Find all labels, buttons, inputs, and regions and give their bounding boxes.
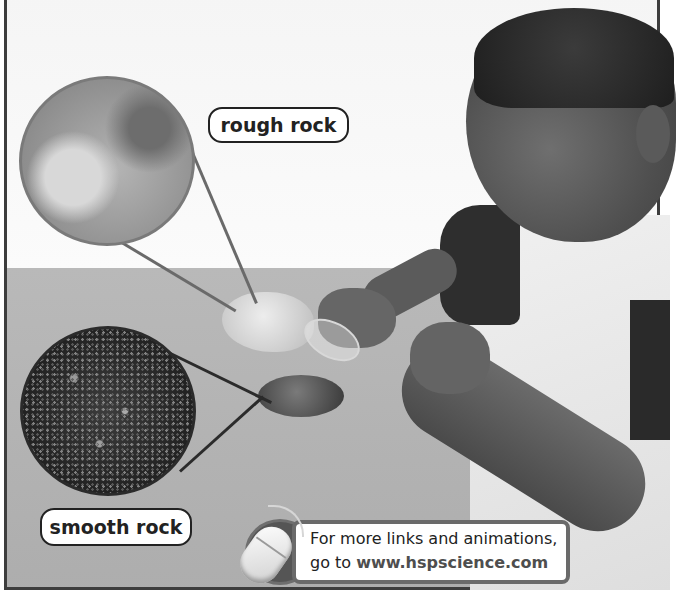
links-banner[interactable]: For more links and animations, go to www… (292, 520, 570, 584)
computer-mouse-icon (246, 525, 292, 583)
banner-line-1: For more links and animations, (310, 527, 566, 551)
website-link[interactable]: www.hspscience.com (356, 553, 548, 572)
banner-prefix: go to (310, 553, 356, 572)
boy-hair (474, 8, 674, 108)
banner-line-2: go to www.hspscience.com (310, 551, 566, 575)
boy-fist (410, 322, 490, 394)
smooth-rock-label: smooth rock (40, 508, 192, 546)
boy-ear (636, 105, 670, 163)
magnified-rough-rock (19, 76, 195, 246)
smooth-rock-object (258, 375, 344, 417)
boy-sleeve-right (630, 300, 670, 440)
rough-rock-label: rough rock (208, 107, 349, 143)
magnified-smooth-rock (20, 326, 196, 496)
